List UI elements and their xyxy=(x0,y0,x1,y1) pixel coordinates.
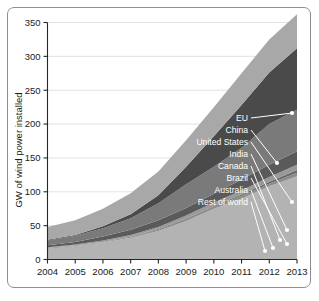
y-axis-ticks-group: 050100150200250300350 xyxy=(25,17,48,265)
leader-dot-canada xyxy=(278,238,282,242)
stacked-area-chart: 050100150200250300350 200420052006200720… xyxy=(0,0,319,301)
series-label-eu: EU xyxy=(236,113,248,123)
series-label-brazil: Brazil xyxy=(227,173,249,183)
x-tick-label: 2004 xyxy=(37,266,58,277)
y-tick-label: 50 xyxy=(30,220,41,231)
y-tick-label: 0 xyxy=(35,254,40,265)
series-label-rest-of-world: Rest of world xyxy=(198,197,248,207)
series-label-china: China xyxy=(226,125,249,135)
x-tick-label: 2007 xyxy=(120,266,141,277)
y-tick-label: 250 xyxy=(25,85,41,96)
series-label-united-states: United States xyxy=(196,137,248,147)
x-tick-label: 2013 xyxy=(286,266,307,277)
series-label-australia: Australia xyxy=(215,185,249,195)
series-label-india: India xyxy=(229,149,248,159)
y-axis-title: GW of wind power installed xyxy=(13,92,24,207)
x-tick-label: 2009 xyxy=(176,266,197,277)
leader-dot-eu xyxy=(290,111,294,115)
x-tick-label: 2012 xyxy=(259,266,280,277)
x-tick-label: 2011 xyxy=(231,266,251,277)
y-tick-label: 150 xyxy=(25,152,41,163)
x-tick-label: 2006 xyxy=(92,266,113,277)
leader-dot-united-states xyxy=(290,200,294,204)
leader-dot-brazil xyxy=(285,242,289,246)
y-tick-label: 350 xyxy=(25,17,41,28)
y-tick-label: 100 xyxy=(25,186,41,197)
leader-dot-rest-of-world xyxy=(263,249,267,253)
y-tick-label: 300 xyxy=(25,51,41,62)
x-tick-label: 2010 xyxy=(203,266,224,277)
figure-container: 050100150200250300350 200420052006200720… xyxy=(0,0,319,301)
area-series-group xyxy=(48,14,298,259)
leader-dot-china xyxy=(275,161,279,165)
leader-dot-australia xyxy=(271,246,275,250)
x-tick-label: 2008 xyxy=(148,266,169,277)
leader-dot-india xyxy=(285,228,289,232)
x-tick-label: 2005 xyxy=(65,266,86,277)
x-axis-ticks-group: 2004200520062007200820092010201120122013 xyxy=(37,260,308,277)
y-tick-label: 200 xyxy=(25,118,41,129)
series-label-canada: Canada xyxy=(218,161,248,171)
